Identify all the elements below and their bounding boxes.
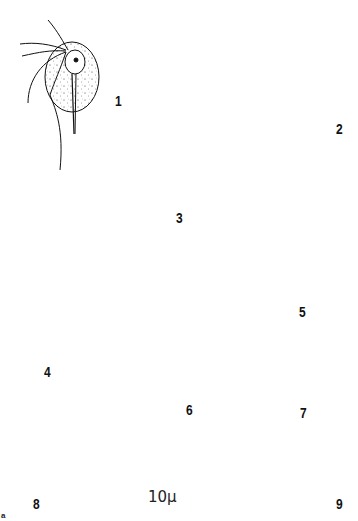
scale-bar-label: 10μ: [148, 490, 177, 505]
specimen-1: [20, 20, 99, 170]
label-7: 7: [300, 405, 307, 420]
corner-mark: a: [1, 511, 5, 520]
label-6: 6: [186, 402, 193, 417]
label-3: 3: [176, 210, 183, 225]
label-5: 5: [299, 304, 306, 319]
label-8: 8: [33, 496, 40, 511]
figure-plate: [0, 0, 358, 521]
label-4: 4: [44, 364, 51, 379]
label-1: 1: [115, 93, 122, 108]
label-2: 2: [336, 121, 343, 136]
label-9: 9: [336, 496, 343, 511]
